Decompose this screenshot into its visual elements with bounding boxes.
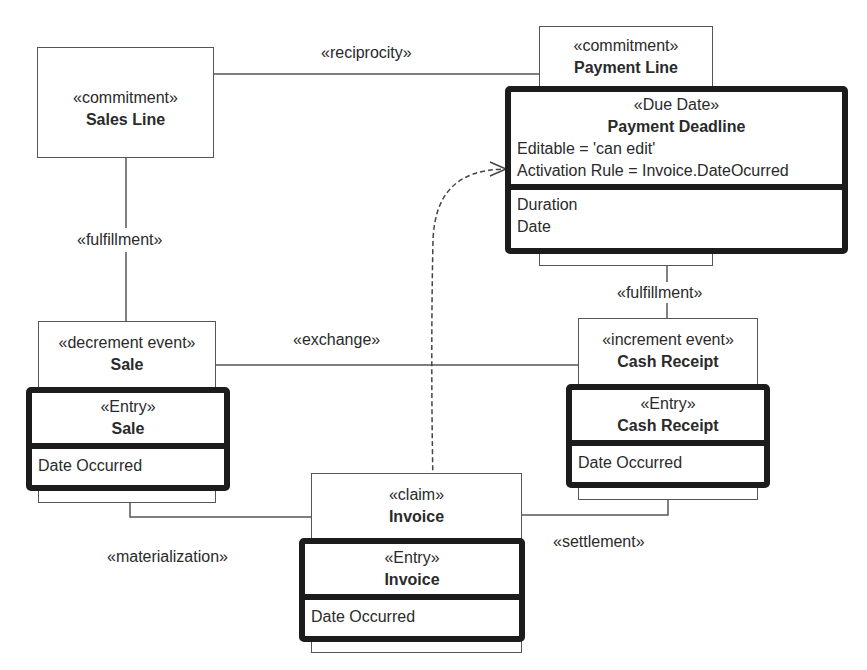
label-settlement: «settlement»	[553, 532, 645, 552]
settlement-line	[520, 500, 668, 515]
stereotype: «Entry»	[305, 547, 519, 569]
label-exchange: «exchange»	[293, 330, 380, 350]
class-payment-deadline[interactable]: «Due Date» Payment Deadline Editable = '…	[505, 86, 848, 254]
class-sale-entry[interactable]: «Entry» Sale Date Occurred	[26, 387, 230, 491]
class-name: Sales Line	[38, 109, 213, 131]
class-name: Cash Receipt	[579, 351, 757, 373]
stereotype: «Entry»	[32, 396, 224, 418]
class-name: Invoice	[305, 569, 519, 591]
stereotype: «commitment»	[38, 87, 213, 109]
label-reciprocity: «reciprocity»	[321, 43, 412, 63]
stereotype: «Entry»	[572, 393, 764, 415]
attribute-duration: Duration	[511, 194, 842, 216]
class-name: Payment Deadline	[511, 116, 842, 138]
class-cash-receipt-entry[interactable]: «Entry» Cash Receipt Date Occurred	[566, 384, 770, 488]
label-fulfillment-left: «fulfillment»	[77, 230, 162, 250]
stereotype: «increment event»	[579, 329, 757, 351]
label-fulfillment-right: «fulfillment»	[617, 283, 702, 303]
attribute-date-occurred: Date Occurred	[32, 455, 224, 477]
stereotype: «decrement event»	[39, 332, 215, 354]
class-name: Payment Line	[540, 57, 712, 79]
tag-editable: Editable = 'can edit'	[511, 138, 842, 160]
stereotype: «Due Date»	[511, 94, 842, 116]
class-name: Sale	[32, 418, 224, 440]
class-name: Cash Receipt	[572, 415, 764, 437]
stereotype: «commitment»	[540, 35, 712, 57]
attribute-date: Date	[511, 216, 842, 238]
class-invoice-entry[interactable]: «Entry» Invoice Date Occurred	[299, 538, 525, 642]
class-name: Invoice	[312, 506, 521, 528]
tag-activation-rule: Activation Rule = Invoice.DateOcurred	[511, 160, 842, 182]
class-name: Sale	[39, 354, 215, 376]
attribute-date-occurred: Date Occurred	[572, 452, 764, 474]
attribute-date-occurred: Date Occurred	[305, 606, 519, 628]
materialization-line	[130, 502, 312, 517]
stereotype: «claim»	[312, 484, 521, 506]
label-materialization: «materialization»	[107, 547, 228, 567]
class-sales-line[interactable]: «commitment» Sales Line	[37, 47, 214, 158]
